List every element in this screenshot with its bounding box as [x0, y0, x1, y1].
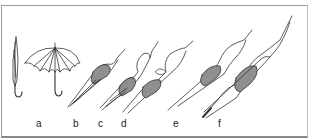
closed-umbrella-icon: [13, 37, 22, 97]
label-a: a: [36, 119, 42, 129]
cell-c-icon: [100, 42, 158, 110]
cell-e-icon: [168, 30, 252, 110]
umbrella-cell-diagram: [0, 0, 311, 138]
label-c: c: [98, 119, 103, 129]
open-umbrella-icon: [25, 43, 80, 96]
label-b: b: [73, 119, 79, 129]
label-d: d: [121, 119, 127, 129]
label-f: f: [218, 119, 221, 129]
label-e: e: [173, 119, 179, 129]
